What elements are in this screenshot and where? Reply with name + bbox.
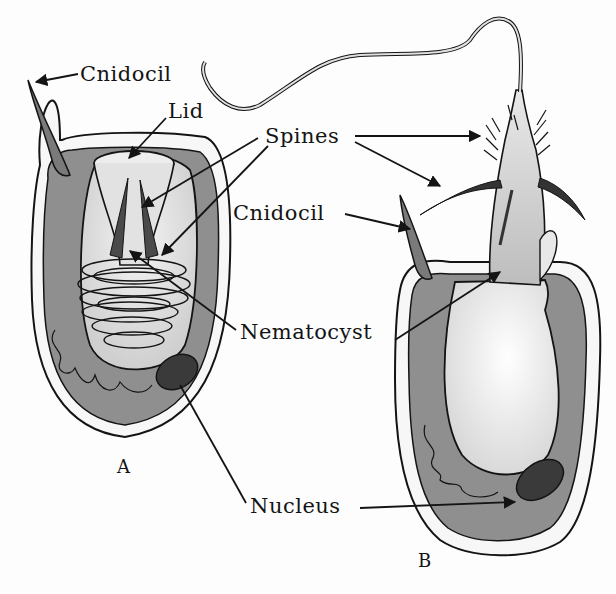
capsule-b xyxy=(445,280,559,475)
barb-right xyxy=(538,178,585,220)
label-cnidocil-a: Cnidocil xyxy=(80,64,172,85)
cell-a xyxy=(28,80,230,437)
nematocyst-diagram: Cnidocil Lid Spines Cnidocil Nematocyst … xyxy=(0,0,616,594)
cell-b xyxy=(203,18,600,555)
caption-a: A xyxy=(117,458,131,476)
caption-b: B xyxy=(418,552,432,570)
label-lid: Lid xyxy=(168,101,204,122)
label-nucleus: Nucleus xyxy=(250,496,341,517)
label-cnidocil-b: Cnidocil xyxy=(233,203,325,224)
label-spines: Spines xyxy=(265,126,339,147)
barb-left xyxy=(420,180,502,215)
cnidocil-b xyxy=(400,195,432,279)
label-nematocyst: Nematocyst xyxy=(240,322,372,343)
